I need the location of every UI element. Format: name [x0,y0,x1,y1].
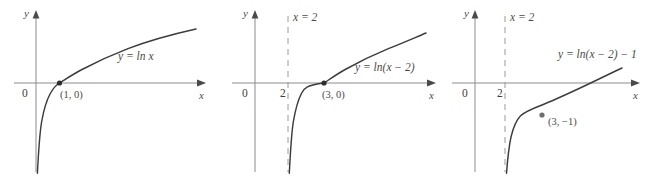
x-axis-arrowhead [427,79,436,86]
origin-label: 0 [242,88,248,100]
graph-panel-2: y x 0 2 x = 2 y = ln(x − 2) (3, 0) [210,0,440,179]
curve-ln-x-minus-2 [289,33,426,173]
origin-label: 0 [22,88,28,100]
panel-1-plot [0,0,210,179]
x-axis-label: x [199,90,204,101]
y-axis-arrowhead [472,10,479,19]
graph-panel-3: y x 0 2 x = 2 y = ln(x − 2) − 1 (3, −1) [440,0,655,179]
point-label-1-0: (1, 0) [60,90,83,101]
x-axis-label: x [633,90,638,101]
y-axis-label: y [24,8,29,19]
y-axis-label: y [243,8,248,19]
curve-label-panel-2: y = ln(x − 2) [355,62,415,74]
x-axis-arrowhead [197,79,206,86]
y-axis-arrowhead [33,10,40,19]
logarithm-transformations-figure: y x 0 y = ln x (1, 0) y x 0 2 x = 2 y = … [0,0,655,179]
point-marker-3-minus-1 [539,112,544,117]
asymptote-label-x-equals-2: x = 2 [293,12,317,24]
curve-label-panel-1: y = ln x [118,51,154,63]
tick-label-2: 2 [280,88,286,100]
graph-panel-1: y x 0 y = ln x (1, 0) [0,0,210,179]
point-label-3-0: (3, 0) [322,90,345,101]
panel-3-plot [440,0,655,179]
y-axis-arrowhead [252,10,259,19]
asymptote-label-x-equals-2: x = 2 [510,12,534,24]
point-marker-1-0 [57,80,62,85]
curve-ln-x [37,29,196,173]
origin-label: 0 [462,88,468,100]
curve-label-panel-3: y = ln(x − 2) − 1 [558,49,637,61]
y-axis-label: y [464,8,469,19]
x-axis-label: x [429,90,434,101]
point-marker-3-0 [321,80,326,85]
x-axis-arrowhead [631,79,640,86]
tick-label-2: 2 [497,88,503,100]
point-label-3-minus-1: (3, −1) [548,117,577,128]
